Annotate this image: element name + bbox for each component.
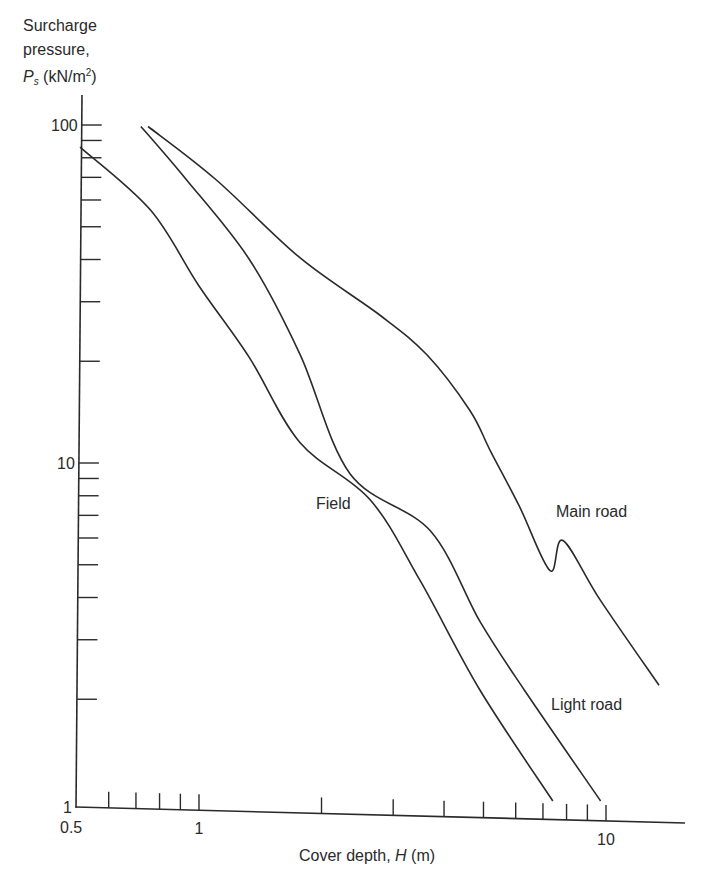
ticks [77,125,606,821]
curve-label-light-road: Light road [551,696,622,713]
curve-main-road [148,127,659,686]
y-tick-label: 10 [57,455,75,472]
x-label-text: Cover depth, [299,847,395,864]
curve-label-main-road: Main road [556,503,627,520]
x-symbol: H [395,847,407,864]
curve-label-field: Field [316,495,351,512]
x-tick-label: 10 [597,831,615,848]
x-tick-label: 0.5 [60,819,82,836]
y-axis-line [76,95,82,808]
y-tick-label: 1 [63,799,72,816]
curve-field [80,147,553,801]
chart-plot: 1101000.5110FieldLight roadMain road [0,0,719,894]
x-axis-line [76,807,685,823]
labels: 1101000.5110FieldLight roadMain road [51,117,627,848]
x-tick-label: 1 [195,820,204,837]
y-tick-label: 100 [51,117,78,134]
axes [76,95,685,823]
x-unit: (m) [407,847,435,864]
curve-light-road [141,127,601,802]
x-axis-label: Cover depth, H (m) [299,847,435,865]
